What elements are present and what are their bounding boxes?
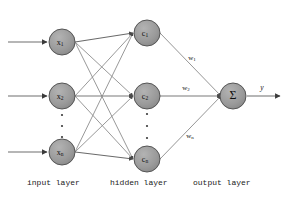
- caption-hidden-layer: hidden layer: [110, 178, 168, 187]
- weight-label-w2: w2: [182, 84, 190, 93]
- hidden-ellipsis-dot: [146, 137, 148, 139]
- input-hidden-edges-group: [75, 33, 133, 159]
- weight-label-w1: w1: [188, 54, 196, 63]
- edge-xn-c2: [75, 96, 133, 152]
- caption-output-layer: output layer: [193, 178, 251, 187]
- hidden-ellipsis: [146, 113, 148, 139]
- edge-cn-sum: [160, 96, 221, 159]
- edge-xn-cn: [75, 152, 133, 159]
- weight-label-wn: wn: [186, 132, 194, 141]
- neural-network-diagram: x1 x2 xn c1 c2: [0, 0, 287, 199]
- hidden-ellipsis-dot: [146, 125, 148, 127]
- output-arrow-group: y: [247, 83, 280, 96]
- edge-x1-cn: [75, 42, 133, 159]
- output-layer-node: Σ: [220, 83, 246, 109]
- caption-input-layer: input layer: [27, 178, 80, 187]
- edge-x2-cn: [75, 96, 133, 159]
- input-ellipsis-dot: [61, 114, 63, 116]
- input-arrows-group: [8, 42, 47, 152]
- summation-symbol: Σ: [230, 88, 237, 102]
- hidden-ellipsis-dot: [146, 113, 148, 115]
- input-ellipsis-dot: [61, 136, 63, 138]
- input-ellipsis-dot: [61, 125, 63, 127]
- hidden-layer-nodes: c1 c2 cn: [134, 20, 160, 172]
- input-layer-nodes: x1 x2 xn: [49, 29, 75, 165]
- edge-x1-c1: [75, 33, 133, 42]
- weight-labels-group: w1 w2 wn: [182, 54, 196, 141]
- edge-x2-c1: [75, 33, 133, 96]
- output-label-y: y: [259, 83, 264, 92]
- edge-c1-sum: [160, 33, 221, 96]
- edge-xn-c1: [75, 33, 133, 152]
- input-ellipsis: [61, 114, 63, 138]
- network-graphic: x1 x2 xn c1 c2: [0, 0, 287, 199]
